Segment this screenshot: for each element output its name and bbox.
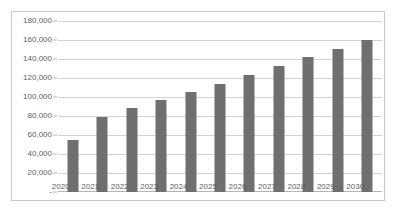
y-axis-tick-label: 80,000 bbox=[28, 112, 52, 120]
plot-area: -20,00040,00060,00080,000100,000120,0001… bbox=[58, 21, 382, 192]
y-tick-mark bbox=[53, 135, 57, 136]
x-axis-labels: 2020202120222023202420252026202720282029… bbox=[46, 182, 370, 196]
x-axis-tick-label: 2030 bbox=[346, 182, 364, 192]
y-axis-tick-label: 40,000 bbox=[28, 150, 52, 158]
y-tick-mark bbox=[53, 154, 57, 155]
bar bbox=[126, 108, 137, 192]
y-tick-mark bbox=[53, 173, 57, 174]
y-axis-tick-label: 60,000 bbox=[28, 131, 52, 139]
bar bbox=[303, 57, 314, 192]
y-tick-mark bbox=[53, 116, 57, 117]
y-tick-mark bbox=[53, 59, 57, 60]
x-axis-tick-label: 2026 bbox=[229, 182, 247, 192]
x-axis-tick-label: 2028 bbox=[287, 182, 305, 192]
chart-frame: -20,00040,00060,00080,000100,000120,0001… bbox=[11, 11, 385, 201]
y-axis-tick-label: 140,000 bbox=[23, 55, 52, 63]
y-axis-tick-label: 160,000 bbox=[23, 36, 52, 44]
y-axis-tick-label: 100,000 bbox=[23, 93, 52, 101]
y-axis-tick-label: 180,000 bbox=[23, 17, 52, 25]
x-axis-tick-label: 2024 bbox=[170, 182, 188, 192]
bar bbox=[332, 49, 343, 192]
bar bbox=[185, 92, 196, 192]
bar-chart-widget: -20,00040,00060,00080,000100,000120,0001… bbox=[0, 0, 398, 219]
x-axis-tick-label: 2027 bbox=[258, 182, 276, 192]
y-axis-tick-label: 120,000 bbox=[23, 74, 52, 82]
bar bbox=[273, 66, 284, 192]
chart-caption bbox=[12, 208, 382, 219]
x-axis-tick-label: 2021 bbox=[81, 182, 99, 192]
bar bbox=[215, 84, 226, 192]
bars bbox=[58, 21, 382, 192]
y-tick-mark bbox=[53, 21, 57, 22]
x-axis-tick-label: 2023 bbox=[140, 182, 158, 192]
bar bbox=[362, 40, 373, 192]
bar bbox=[244, 75, 255, 192]
x-axis-tick-label: 2020 bbox=[52, 182, 70, 192]
bar bbox=[97, 117, 108, 192]
y-tick-mark bbox=[53, 78, 57, 79]
y-tick-mark bbox=[53, 97, 57, 98]
x-axis-tick-label: 2029 bbox=[317, 182, 335, 192]
bar bbox=[156, 100, 167, 192]
x-axis-tick-label: 2022 bbox=[111, 182, 129, 192]
x-axis-tick-label: 2025 bbox=[199, 182, 217, 192]
y-tick-mark bbox=[53, 40, 57, 41]
y-axis-tick-label: 20,000 bbox=[28, 169, 52, 177]
